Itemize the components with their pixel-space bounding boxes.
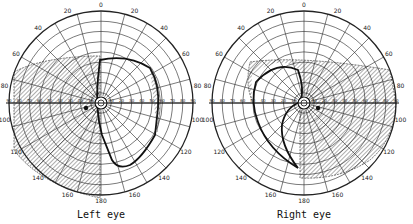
scale-label: 40 — [58, 98, 64, 103]
scale-label: 10 — [312, 98, 318, 103]
scale-label: 50 — [353, 98, 359, 103]
scale-label: 90 — [393, 98, 399, 103]
scale-label: 30 — [129, 98, 135, 103]
angle-label: 160 — [265, 191, 277, 198]
angle-label: 140 — [361, 174, 373, 181]
left-eye-chart: Left eye — [6, 11, 196, 220]
angle-label: 180 — [95, 197, 107, 204]
scale-label: 20 — [281, 98, 287, 103]
scale-label: 80 — [220, 98, 226, 103]
angle-label: 20 — [267, 7, 275, 14]
angle-label: 0 — [99, 1, 103, 8]
angle-label: 60 — [12, 50, 20, 57]
scale-label: 20 — [78, 98, 84, 103]
scale-label: 60 — [363, 98, 369, 103]
angle-label: 60 — [385, 50, 393, 57]
left-blind-spot — [84, 106, 88, 110]
scale-label: 70 — [170, 98, 176, 103]
scale-label: 30 — [68, 98, 74, 103]
angle-label: 120 — [383, 148, 395, 155]
scale-label: 30 — [271, 98, 277, 103]
angle-label: 100 — [202, 116, 214, 123]
scale-label: 70 — [373, 98, 379, 103]
left-eye-caption: Left eye — [77, 209, 125, 220]
angle-label: 140 — [158, 174, 170, 181]
scale-label: 90 — [6, 98, 12, 103]
angle-label: 140 — [235, 174, 247, 181]
scale-label: 40 — [261, 98, 267, 103]
scale-label: 90 — [209, 98, 215, 103]
scale-label: 80 — [180, 98, 186, 103]
scale-label: 60 — [240, 98, 246, 103]
angle-label: 60 — [215, 50, 223, 57]
angle-label: 180 — [298, 197, 310, 204]
scale-label: 50 — [250, 98, 256, 103]
scale-label: 40 — [342, 98, 348, 103]
angle-label: 40 — [363, 24, 371, 31]
angle-label: 80 — [194, 82, 202, 89]
angle-label: 0 — [302, 1, 306, 8]
scale-label: 50 — [150, 98, 156, 103]
scale-label: 60 — [37, 98, 43, 103]
scale-label: 70 — [27, 98, 33, 103]
scale-label: 80 — [383, 98, 389, 103]
angle-label: 160 — [62, 191, 74, 198]
scale-label: 40 — [139, 98, 145, 103]
angle-label: 100 — [395, 116, 407, 123]
visual-field-figure: Left eye Right eye 020406080100120140160… — [0, 0, 413, 224]
scale-label: 10 — [291, 98, 297, 103]
angle-label: 160 — [332, 191, 344, 198]
angle-label: 140 — [32, 174, 44, 181]
angle-label: 20 — [334, 7, 342, 14]
angle-label: 120 — [10, 148, 22, 155]
angle-label: 120 — [213, 148, 225, 155]
scale-label: 70 — [230, 98, 236, 103]
scale-label: 80 — [17, 98, 23, 103]
scale-label: 20 — [322, 98, 328, 103]
angle-label: 80 — [1, 82, 9, 89]
right-eye-caption: Right eye — [277, 209, 331, 220]
angle-label: 40 — [34, 24, 42, 31]
angle-label: 40 — [237, 24, 245, 31]
scale-label: 10 — [109, 98, 115, 103]
scale-label: 60 — [160, 98, 166, 103]
angle-label: 40 — [160, 24, 168, 31]
scale-label: 90 — [190, 98, 196, 103]
scale-label: 30 — [332, 98, 338, 103]
angle-label: 160 — [129, 191, 141, 198]
angle-label: 20 — [131, 7, 139, 14]
scale-label: 20 — [119, 98, 125, 103]
angle-label: 80 — [204, 82, 212, 89]
right-blind-spot — [316, 106, 320, 110]
angle-label: 80 — [397, 82, 405, 89]
angle-label: 100 — [0, 116, 10, 123]
scale-label: 50 — [47, 98, 53, 103]
scale-label: 10 — [88, 98, 94, 103]
right-eye-chart: Right eye — [209, 11, 399, 220]
angle-label: 20 — [64, 7, 72, 14]
angle-label: 120 — [180, 148, 192, 155]
angle-label: 60 — [182, 50, 190, 57]
